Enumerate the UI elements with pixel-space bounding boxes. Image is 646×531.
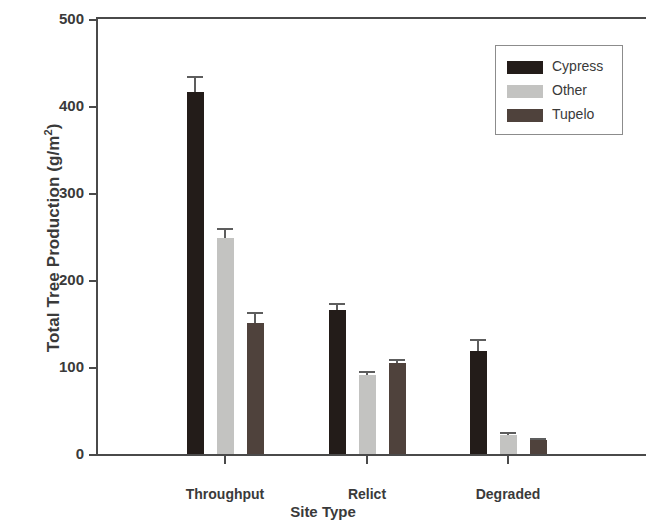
bar-other-relict — [359, 375, 376, 454]
x-axis-tick-label: Degraded — [476, 486, 541, 502]
y-axis-title-exponent: 2 — [42, 129, 54, 135]
bar-other-degraded — [500, 435, 517, 454]
y-axis-tick-label: 500 — [59, 10, 84, 27]
y-axis-tick-label: 0 — [76, 445, 84, 462]
y-axis-tick: 200 — [89, 280, 96, 282]
error-bar-cap — [470, 339, 486, 341]
x-axis-tick-label: Relict — [348, 486, 386, 502]
y-axis-tick-label: 100 — [59, 358, 84, 375]
y-axis-title-suffix: ) — [44, 124, 63, 130]
bar-chart-figure: Total Tree Production (g/m2) 01002003004… — [0, 0, 646, 531]
y-axis-tick-label: 400 — [59, 97, 84, 114]
error-bar-cap — [217, 228, 233, 230]
error-bar-cap — [329, 303, 345, 305]
y-axis-tick: 0 — [89, 454, 96, 456]
x-axis-tick — [507, 456, 509, 464]
legend-label: Other — [552, 82, 587, 98]
x-axis-tick — [366, 456, 368, 464]
y-axis-title-text: Total Tree Production (g/m — [44, 135, 63, 352]
bar-cypress-degraded — [470, 351, 487, 454]
x-axis-tick — [224, 456, 226, 464]
error-bar-cap — [247, 312, 263, 314]
legend-label: Tupelo — [552, 106, 594, 122]
y-axis-tick: 100 — [89, 367, 96, 369]
bar-tupelo-relict — [389, 363, 406, 454]
x-axis-title: Site Type — [0, 503, 646, 520]
error-bar-cap — [389, 359, 405, 361]
legend-swatch-tupelo — [507, 109, 543, 122]
bar-tupelo-degraded — [530, 440, 547, 454]
error-bar-stem — [194, 76, 196, 93]
x-axis-tick-label: Throughput — [186, 486, 265, 502]
x-axis-line — [96, 454, 646, 456]
y-axis-tick: 300 — [89, 193, 96, 195]
legend-label: Cypress — [552, 58, 603, 74]
error-bar-cap — [359, 371, 375, 373]
y-axis-tick: 400 — [89, 106, 96, 108]
error-bar-cap — [530, 438, 546, 440]
y-axis-tick-label: 300 — [59, 184, 84, 201]
bar-cypress-relict — [329, 310, 346, 454]
y-axis-line — [96, 17, 98, 456]
bar-cypress-throughput — [187, 92, 204, 454]
legend-swatch-cypress — [507, 61, 543, 74]
bar-other-throughput — [217, 238, 234, 454]
y-axis-tick-label: 200 — [59, 271, 84, 288]
y-axis-title: Total Tree Production (g/m2) — [42, 28, 64, 448]
error-bar-cap — [500, 432, 516, 434]
error-bar-cap — [187, 76, 203, 78]
chart-legend: CypressOtherTupelo — [495, 45, 623, 135]
y-axis-tick: 500 — [89, 19, 96, 21]
plot-top-border — [96, 17, 646, 19]
legend-swatch-other — [507, 85, 543, 98]
bar-tupelo-throughput — [247, 323, 264, 454]
